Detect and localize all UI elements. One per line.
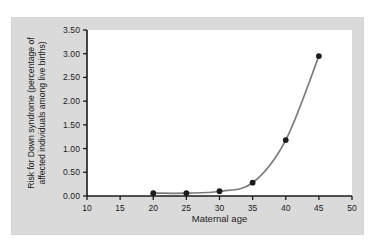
x-tick-label: 15	[115, 203, 125, 213]
series-line	[153, 56, 319, 193]
y-tick-label: 3.00	[63, 49, 80, 59]
x-tick-label: 20	[148, 203, 158, 213]
x-tick-label: 30	[215, 203, 225, 213]
figure: 0.000.501.001.502.002.503.003.50 1015202…	[0, 0, 376, 252]
y-tick-label: 2.50	[63, 72, 80, 82]
data-point-marker	[250, 180, 256, 186]
x-tick-label: 10	[82, 203, 92, 213]
y-axis-title-line-2: affected individuals among live births)	[37, 41, 48, 184]
x-tick-label: 50	[347, 203, 357, 213]
axes	[83, 30, 352, 200]
x-tick-label: 25	[182, 203, 192, 213]
y-tick-label: 3.50	[63, 25, 80, 35]
y-tick-label: 0.50	[63, 167, 80, 177]
y-tick-label: 1.00	[63, 144, 80, 154]
data-point-marker	[316, 53, 322, 59]
x-tick-label: 40	[281, 203, 291, 213]
data-point-marker	[283, 137, 289, 143]
x-tick-label: 35	[248, 203, 258, 213]
y-axis-title: Risk for Down syndrome (percentage of af…	[22, 30, 52, 196]
data-series	[150, 53, 321, 196]
x-axis-title: Maternal age	[87, 213, 352, 224]
data-point-marker	[217, 188, 223, 194]
y-tick-label: 1.50	[63, 120, 80, 130]
x-tick-label: 45	[314, 203, 324, 213]
data-point-marker	[183, 190, 189, 196]
y-tick-label: 2.00	[63, 96, 80, 106]
y-tick-label: 0.00	[63, 191, 80, 201]
y-axis-title-line-1: Risk for Down syndrome (percentage of	[26, 37, 37, 188]
data-point-marker	[150, 190, 156, 196]
